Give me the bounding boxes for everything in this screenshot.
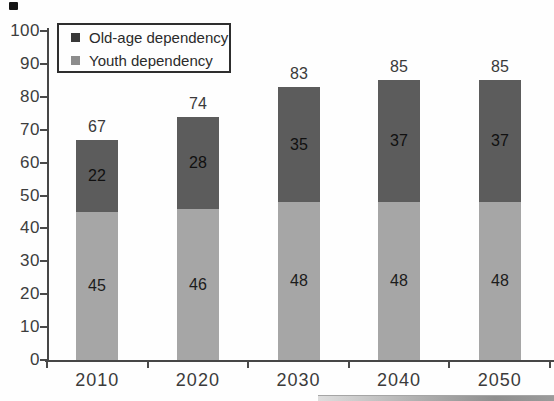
y-axis-tick — [40, 96, 47, 98]
old-age-swatch-icon — [71, 33, 80, 42]
x-axis-tick — [247, 362, 249, 368]
bar-label-youth-2010: 45 — [76, 277, 118, 295]
x-axis-category-label-2040: 2040 — [364, 370, 434, 391]
bar-label-old-age-2050: 37 — [479, 132, 521, 150]
x-axis-category-label-2020: 2020 — [163, 370, 233, 391]
y-axis-tick — [40, 293, 47, 295]
bar-label-old-age-2040: 37 — [378, 132, 420, 150]
y-axis-tick-label: 50 — [0, 186, 40, 206]
bar-label-youth-2050: 48 — [479, 272, 521, 290]
legend-item-youth: Youth dependency — [59, 49, 229, 72]
bar-label-youth-2030: 48 — [278, 272, 320, 290]
bar-label-old-age-2010: 22 — [76, 167, 118, 185]
bar-label-youth-2040: 48 — [378, 272, 420, 290]
bar-label-old-age-2030: 35 — [278, 136, 320, 154]
x-axis-category-label-2010: 2010 — [62, 370, 132, 391]
scan-artifact-strip — [318, 395, 554, 401]
bar-label-old-age-2020: 28 — [177, 154, 219, 172]
y-axis-tick-label: 90 — [0, 54, 40, 74]
bar-total-label-2040: 85 — [369, 58, 429, 76]
y-axis-tick — [40, 30, 47, 32]
x-axis-tick — [147, 362, 149, 368]
legend-label-youth: Youth dependency — [89, 52, 213, 69]
x-axis-line — [45, 360, 554, 362]
y-axis-tick — [40, 227, 47, 229]
y-axis-tick-label: 80 — [0, 87, 40, 107]
y-axis-tick — [40, 326, 47, 328]
y-axis-tick-label: 40 — [0, 218, 40, 238]
scan-artifact-square — [9, 2, 18, 10]
y-axis-tick — [40, 195, 47, 197]
x-axis-tick — [549, 362, 551, 368]
y-axis-tick — [40, 162, 47, 164]
legend: Old-age dependency Youth dependency — [57, 23, 231, 73]
y-axis-tick-label: 10 — [0, 317, 40, 337]
chart-canvas: Old-age dependency Youth dependency 0102… — [0, 0, 554, 401]
y-axis-tick — [40, 63, 47, 65]
legend-item-old-age: Old-age dependency — [59, 26, 229, 49]
y-axis-tick-label: 60 — [0, 153, 40, 173]
y-axis-tick-label: 70 — [0, 120, 40, 140]
x-axis-category-label-2050: 2050 — [465, 370, 535, 391]
bar-total-label-2010: 67 — [67, 118, 127, 136]
bar-label-youth-2020: 46 — [177, 276, 219, 294]
y-axis-tick-label: 0 — [0, 350, 40, 370]
y-axis-line — [47, 28, 49, 362]
x-axis-category-label-2030: 2030 — [264, 370, 334, 391]
y-axis-tick-label: 20 — [0, 284, 40, 304]
legend-label-old-age: Old-age dependency — [89, 29, 228, 46]
y-axis-tick — [40, 260, 47, 262]
bar-total-label-2050: 85 — [470, 58, 530, 76]
x-axis-tick — [448, 362, 450, 368]
bar-total-label-2030: 83 — [269, 65, 329, 83]
y-axis-tick — [40, 359, 47, 361]
x-axis-tick — [348, 362, 350, 368]
y-axis-tick-label: 100 — [0, 21, 40, 41]
y-axis-tick — [40, 129, 47, 131]
youth-swatch-icon — [71, 56, 80, 65]
x-axis-tick — [46, 362, 48, 368]
y-axis-tick-label: 30 — [0, 251, 40, 271]
bar-total-label-2020: 74 — [168, 95, 228, 113]
